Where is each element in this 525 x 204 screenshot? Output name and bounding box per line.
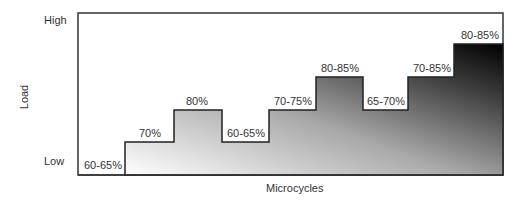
y-axis-title: Load: [18, 85, 30, 109]
step-label: 60-65%: [84, 159, 122, 171]
x-axis-title: Microcycles: [266, 182, 323, 194]
step-label: 80%: [186, 95, 208, 107]
step-label: 60-65%: [227, 127, 265, 139]
y-tick-high: High: [44, 14, 67, 26]
step-label: 65-70%: [367, 95, 405, 107]
step-chart: [0, 0, 525, 204]
step-label: 70-75%: [274, 95, 312, 107]
step-label: 70-85%: [413, 62, 451, 74]
step-label: 70%: [139, 127, 161, 139]
step-label: 80-85%: [321, 62, 359, 74]
step-label: 80-85%: [461, 29, 499, 41]
y-tick-low: Low: [44, 155, 64, 167]
